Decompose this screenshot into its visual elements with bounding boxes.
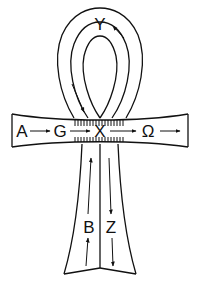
label-y: Y — [94, 15, 105, 34]
loop-inner-outline — [83, 36, 117, 118]
ankh-loop: Y — [58, 8, 143, 118]
stem-left-edge — [64, 144, 82, 274]
arrow-stem-right-down-lower — [112, 238, 113, 266]
label-b: B — [83, 218, 94, 237]
label-x: X — [94, 122, 105, 141]
label-z: Z — [106, 218, 116, 237]
arrow-stem-left-up-lower — [86, 238, 88, 266]
label-omega: Ω — [142, 122, 155, 141]
ankh-diagram: Y — [0, 0, 201, 286]
label-g: G — [53, 122, 66, 141]
stem-bottom-right — [100, 268, 136, 274]
arrow-stem-left-up-upper — [88, 158, 91, 214]
ankh-crossbar: A G X Ω — [12, 114, 188, 147]
stem-right-edge — [118, 144, 136, 274]
label-a: A — [16, 122, 28, 141]
loop-arrow-up-right — [113, 26, 124, 38]
arrow-stem-right-down-upper — [109, 158, 111, 214]
stem-bottom-left — [64, 268, 100, 274]
ankh-stem: B Z — [64, 144, 136, 274]
loop-arrow-down-left — [72, 84, 84, 112]
